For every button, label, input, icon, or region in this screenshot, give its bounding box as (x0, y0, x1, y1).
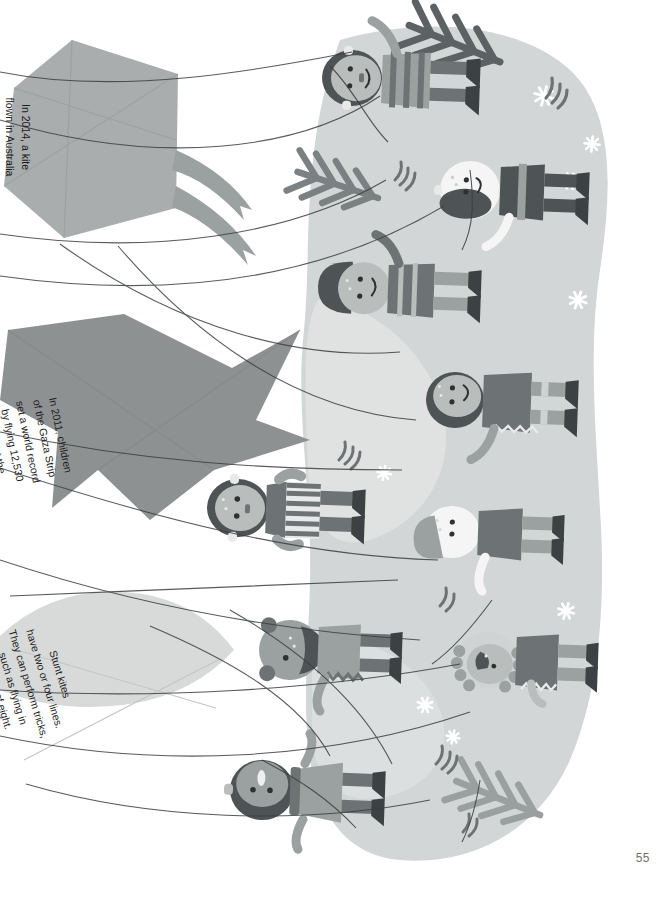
kite-scene-illustration (0, 0, 662, 903)
kite-fact-3-shape (0, 592, 234, 760)
kite-fact-2-shape (0, 314, 310, 520)
book-page: In 2014, a kite flown in Australia soare… (0, 0, 662, 903)
page-number: 55 (636, 851, 650, 865)
snowflake-icon (600, 604, 617, 621)
